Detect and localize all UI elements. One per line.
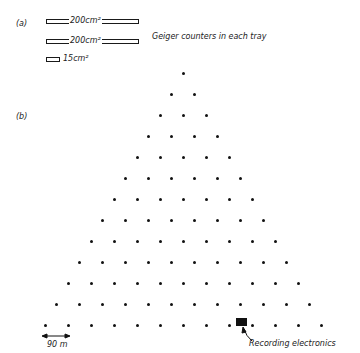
- scale-label: 90 m: [47, 341, 68, 349]
- annotations: [0, 0, 360, 353]
- electronics-label: Recording electronics: [249, 340, 336, 348]
- scale-arrow-icon: [42, 334, 70, 338]
